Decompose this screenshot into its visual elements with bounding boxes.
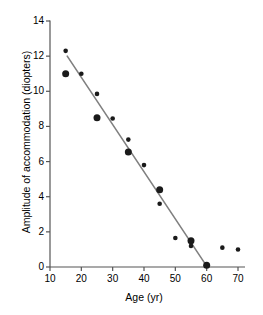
data-point bbox=[125, 148, 132, 155]
x-axis-tick-label: 40 bbox=[133, 274, 155, 284]
x-axis-tick-label: 10 bbox=[39, 274, 61, 284]
data-points bbox=[62, 49, 240, 269]
data-point bbox=[203, 262, 210, 269]
data-point bbox=[142, 163, 147, 168]
data-point bbox=[79, 71, 84, 76]
x-axis-title: Age (yr) bbox=[50, 291, 238, 303]
data-point bbox=[95, 92, 100, 97]
y-axis-title: Amplitude of accommodation (diopters) bbox=[20, 32, 32, 252]
y-axis-tick-label: 14 bbox=[22, 16, 44, 26]
data-point bbox=[236, 247, 241, 252]
data-point bbox=[157, 201, 162, 206]
data-point bbox=[156, 186, 163, 193]
x-axis-tick-label: 50 bbox=[164, 274, 186, 284]
data-point bbox=[220, 245, 225, 250]
chart-figure: 02468101214 10203040506070 Age (yr) Ampl… bbox=[0, 0, 263, 315]
data-point bbox=[110, 116, 115, 121]
data-point bbox=[126, 137, 131, 142]
data-point bbox=[63, 49, 68, 54]
x-axis-tick-label: 30 bbox=[102, 274, 124, 284]
axes bbox=[46, 21, 245, 272]
data-point bbox=[189, 244, 194, 249]
data-point bbox=[188, 237, 195, 244]
data-point bbox=[173, 236, 178, 241]
y-axis-tick-label: 0 bbox=[22, 262, 44, 272]
x-axis-tick-label: 20 bbox=[70, 274, 92, 284]
data-point bbox=[62, 70, 69, 77]
x-axis-tick-label: 70 bbox=[227, 274, 249, 284]
data-point bbox=[94, 114, 101, 121]
x-axis-tick-label: 60 bbox=[196, 274, 218, 284]
regression-line bbox=[67, 56, 206, 266]
